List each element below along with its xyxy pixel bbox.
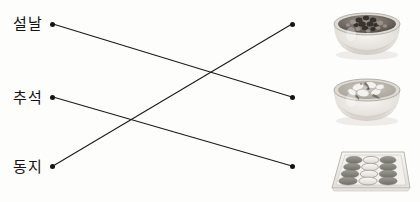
left-connector-dot-seollal[interactable] (50, 22, 55, 27)
food-image-rice-cake-soup[interactable] (318, 68, 416, 130)
left-connector-dot-chuseok[interactable] (50, 95, 55, 100)
right-connector-dot-songpyeon[interactable] (290, 164, 295, 169)
right-connector-dot-patjuk[interactable] (290, 22, 295, 27)
food-image-songpyeon-tray[interactable] (318, 140, 416, 202)
connection-line-chuseok-songpyeon (53, 97, 292, 166)
left-connector-dot-dongji[interactable] (50, 164, 55, 169)
left-label-dongji[interactable]: 동지 (6, 158, 50, 176)
left-label-seollal[interactable]: 설날 (6, 15, 50, 33)
connection-line-seollal-tteokguk (53, 24, 292, 97)
right-connector-dot-tteokguk[interactable] (290, 95, 295, 100)
matching-worksheet: 설날 추석 동지 (0, 0, 420, 202)
connection-line-dongji-patjuk (53, 24, 292, 166)
food-image-red-bean-porridge[interactable] (318, 2, 416, 64)
left-label-chuseok[interactable]: 추석 (6, 89, 50, 107)
